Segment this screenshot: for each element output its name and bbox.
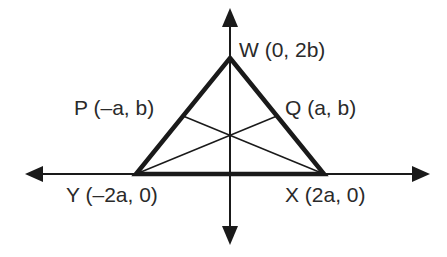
x-axis-right-arrow-icon — [412, 166, 430, 182]
y-axis — [222, 8, 238, 245]
label-point-q: Q (a, b) — [285, 97, 356, 118]
label-point-w: W (0, 2b) — [239, 39, 325, 60]
y-axis-down-arrow-icon — [222, 226, 238, 245]
label-point-x: X (2a, 0) — [285, 184, 366, 205]
y-axis-up-arrow-icon — [222, 8, 238, 27]
diagram-canvas: W (0, 2b) P (–a, b) Q (a, b) Y (–2a, 0) … — [0, 0, 447, 257]
x-axis-left-arrow-icon — [25, 166, 43, 182]
label-point-y: Y (–2a, 0) — [66, 184, 158, 205]
triangle-diagram — [0, 0, 447, 257]
label-point-p: P (–a, b) — [74, 97, 154, 118]
